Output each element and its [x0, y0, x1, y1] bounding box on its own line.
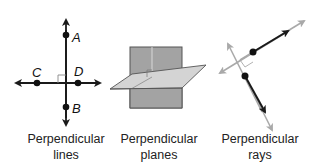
ray-2-endpoint: [242, 73, 249, 80]
caption-line-2: lines: [16, 147, 116, 163]
caption-perpendicular-planes: Perpendicular planes: [109, 131, 209, 163]
caption-perpendicular-rays: Perpendicular rays: [210, 131, 310, 163]
vertical-plane-lower: [130, 89, 182, 108]
point-c: [34, 80, 41, 87]
perpendicular-planes-figure: [110, 47, 206, 108]
label-b: B: [72, 101, 81, 116]
label-a: A: [71, 30, 81, 45]
rays-right-angle-marker: [240, 60, 253, 67]
caption-line-1: Perpendicular: [109, 131, 209, 147]
point-b: [63, 104, 70, 111]
point-d: [75, 80, 82, 87]
caption-line-1: Perpendicular: [16, 131, 116, 147]
caption-line-2: rays: [210, 147, 310, 163]
ray-1: [253, 31, 288, 52]
label-d: D: [74, 64, 83, 79]
caption-perpendicular-lines: Perpendicular lines: [16, 131, 116, 163]
right-angle-marker: [58, 75, 66, 83]
ray-1-endpoint: [250, 49, 257, 56]
ray-2: [245, 76, 265, 112]
perpendicular-rays-figure: [220, 21, 304, 130]
caption-line-1: Perpendicular: [210, 131, 310, 147]
point-a: [63, 32, 70, 39]
caption-line-2: planes: [109, 147, 209, 163]
label-c: C: [32, 65, 42, 80]
perpendicular-lines-figure: A B C D: [16, 20, 100, 125]
